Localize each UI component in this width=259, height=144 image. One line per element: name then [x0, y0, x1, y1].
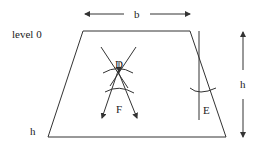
diagram-canvas: b level 0 h E h D F	[0, 0, 259, 144]
height-label-left: h	[30, 125, 36, 137]
region-e-label: E	[203, 104, 210, 116]
arc-f	[105, 88, 134, 93]
level-label: level 0	[12, 28, 42, 40]
region-f-label: F	[116, 103, 122, 115]
height-label-right: h	[240, 78, 246, 90]
arc-e	[190, 88, 216, 92]
region-d-label: D	[115, 58, 123, 70]
width-label: b	[134, 8, 140, 20]
